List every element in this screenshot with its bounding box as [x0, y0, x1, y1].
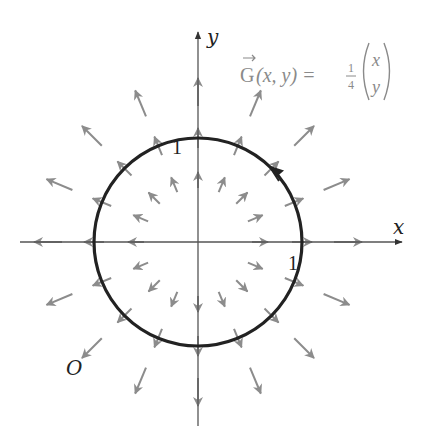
field-arrow-icon	[248, 215, 263, 221]
svg-text:1: 1	[348, 61, 354, 75]
field-arrow-icon	[294, 126, 314, 146]
field-arrow-icon	[248, 263, 263, 269]
field-arrow-icon	[294, 338, 314, 358]
field-arrow-icon	[133, 263, 148, 269]
svg-text:G: G	[240, 64, 254, 86]
field-arrow-icon	[250, 91, 261, 117]
field-arrow-icon	[324, 179, 350, 190]
field-arrow-icon	[236, 280, 247, 291]
field-arrow-icon	[149, 193, 160, 204]
field-arrow-icon	[219, 177, 225, 192]
svg-text:x: x	[371, 50, 380, 70]
field-arrow-icon	[135, 368, 146, 394]
svg-text:y: y	[370, 77, 380, 97]
svg-text:4: 4	[348, 78, 354, 92]
region-label: O	[66, 356, 82, 380]
field-arrow-icon	[324, 294, 350, 305]
field-arrow-icon	[135, 91, 146, 117]
vector-arrow-icon	[243, 55, 255, 61]
tick-label-right: 1	[288, 252, 298, 274]
formula: G (x, y) = 1 4 x y	[240, 43, 390, 100]
field-arrow-icon	[171, 177, 177, 192]
field-arrow-icon	[47, 179, 73, 190]
field-arrow-icon	[82, 338, 102, 358]
y-axis-label: y	[206, 25, 219, 49]
field-arrow-icon	[171, 292, 177, 307]
vector-field-diagram: x y 1 1 O G (x, y) = 1 4 x y	[0, 0, 429, 446]
field-arrow-icon	[219, 292, 225, 307]
svg-text:(x, y) =: (x, y) =	[256, 64, 316, 87]
field-arrow-icon	[47, 294, 73, 305]
field-arrow-icon	[133, 215, 148, 221]
field-arrow-icon	[82, 126, 102, 146]
field-arrow-icon	[250, 368, 261, 394]
field-arrow-icon	[149, 280, 160, 291]
x-axis-label: x	[393, 215, 404, 239]
field-arrow-icon	[236, 193, 247, 204]
tick-label-top: 1	[172, 136, 182, 158]
